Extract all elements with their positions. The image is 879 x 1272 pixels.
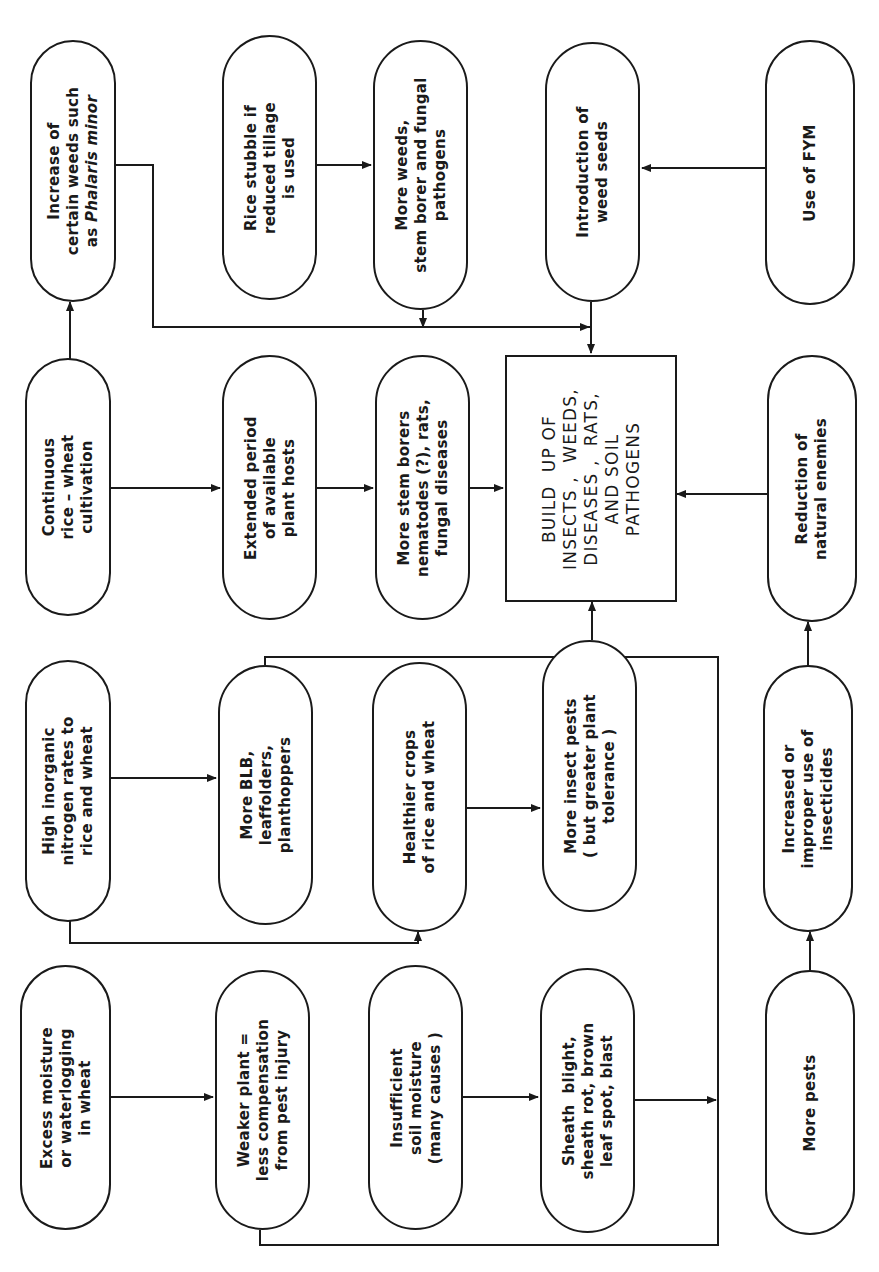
node-label: High inorganic nitrogen rates to rice an… [40,716,97,865]
node-label: More insect pests ( but greater plant to… [561,694,618,858]
node-label: More pests [801,1054,820,1151]
node-label: Introduction of weed seeds [574,106,612,237]
node-label: Insufficient soil moisture (many causes … [387,1031,444,1163]
node-label: More weeds, stem borer and fungal pathog… [392,77,449,272]
node-label: Extended period of available plant hosts [241,416,298,560]
node-label: More BLB, leaffolders, planthoppers [237,737,294,853]
node-reduction-natural-enemies: Reduction of natural enemies [767,355,857,622]
node-insufficient-moisture: Insufficient soil moisture (many causes … [368,965,463,1230]
node-buildup-center: BUILD UP OF INSECTS , WEEDS, DISEASES , … [505,355,677,602]
node-sheath-blight: Sheath blight, sheath rot, brown leaf sp… [540,968,635,1233]
node-label: Reduction of natural enemies [793,418,831,560]
node-more-insect-pests: More insect pests ( but greater plant to… [542,640,637,912]
node-more-stem-borers: More stem borers nematodes (?), rats, fu… [375,355,470,620]
line-weaker-plant-loop [260,657,718,1245]
node-more-weeds: More weeds, stem borer and fungal pathog… [373,40,468,310]
node-label: More stem borers nematodes (?), rats, fu… [394,399,451,577]
node-introduction-weed-seeds: Introduction of weed seeds [545,42,640,302]
node-label: Increased or improper use of insecticide… [780,729,837,868]
node-label: Increase of certain weeds such as Phalar… [45,87,102,255]
node-extended-period: Extended period of available plant hosts [222,355,317,620]
line-increase-weeds [115,165,590,327]
node-label: Continuous rice – wheat cultivation [40,434,97,539]
node-label: Rice stubble if reduced tillage is used [241,101,298,233]
line-highn-to-healthier [70,920,418,943]
node-use-of-fym: Use of FYM [765,40,855,305]
node-continuous-cultivation: Continuous rice – wheat cultivation [25,358,111,616]
node-increased-insecticides: Increased or improper use of insecticide… [763,665,853,932]
node-label: Healthier crops of rice and wheat [401,721,439,874]
node-label: Sheath blight, sheath rot, brown leaf sp… [559,1022,616,1179]
node-increase-weeds: Increase of certain weeds such as Phalar… [30,40,116,302]
node-more-blb: More BLB, leaffolders, planthoppers [218,665,313,925]
node-high-nitrogen: High inorganic nitrogen rates to rice an… [25,660,111,922]
node-label: Weaker plant = less compensation from pe… [234,1019,291,1181]
center-label: BUILD UP OF INSECTS , WEEDS, DISEASES , … [539,388,644,570]
node-weaker-plant: Weaker plant = less compensation from pe… [215,970,310,1230]
node-more-pests: More pests [765,970,855,1235]
node-rice-stubble: Rice stubble if reduced tillage is used [222,35,317,300]
node-excess-moisture: Excess moisture or waterlogging in wheat [20,965,111,1230]
node-label: Use of FYM [801,124,820,222]
node-healthier-crops: Healthier crops of rice and wheat [372,662,467,932]
flowchart: Increase of certain weeds such as Phalar… [0,0,879,1272]
node-label: Excess moisture or waterlogging in wheat [37,1027,94,1169]
